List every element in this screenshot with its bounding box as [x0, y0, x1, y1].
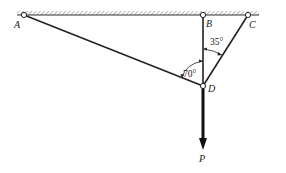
label-D: D	[207, 83, 216, 94]
angle-arc-35	[203, 48, 222, 56]
load-arrow	[199, 88, 207, 150]
pin-A-icon	[21, 12, 26, 17]
label-B: B	[206, 18, 212, 29]
diagram-canvas: A B C D 35° 70° P	[0, 0, 286, 173]
pin-D-icon	[200, 83, 205, 88]
truss-diagram: A B C D 35° 70° P	[0, 0, 286, 173]
angle-label-35: 35°	[210, 37, 224, 47]
angle-label-70: 70°	[183, 69, 197, 79]
member-AD	[24, 15, 203, 86]
pin-C-icon	[245, 12, 250, 17]
pin-B-icon	[200, 12, 205, 17]
label-C: C	[249, 19, 256, 30]
label-A: A	[13, 19, 21, 30]
ceiling-support	[17, 11, 259, 15]
label-P: P	[198, 153, 205, 164]
